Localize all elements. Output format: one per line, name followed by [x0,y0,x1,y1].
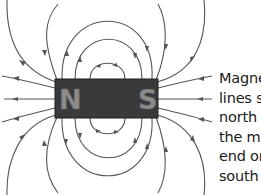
caption-text: Magnet lines sta north po the mag end on… [219,69,261,187]
field-line-open-top-right-2 [157,0,205,82]
caption-line: the mag [219,128,261,148]
caption-line: Magnet [219,69,261,89]
field-line-left-lower [2,108,55,122]
field-line-left-upper [2,76,55,88]
field-line-open-top-left-1 [47,4,58,80]
field-line-open-top-right-1 [156,4,165,80]
field-line-inner-bottom [90,118,125,134]
caption-line: end on t [219,147,261,167]
arrow-icon [133,137,137,143]
field-line-open-bottom-right-2 [157,115,205,195]
arrow-icon [42,140,47,146]
south-pole-label: S [138,84,157,115]
field-line-inner-top [90,63,125,79]
arrow-icon [12,97,18,101]
arrow-icon [96,64,101,68]
arrow-icon [42,50,47,56]
arrow-icon [19,60,26,66]
north-pole-label: N [59,84,82,115]
field-line-open-bottom-left-1 [47,117,58,193]
arrow-icon [197,97,203,101]
field-line-open-top-left-2 [7,0,56,82]
field-line-middle-top [75,39,142,79]
field-line-open-bottom-right-1 [156,117,165,193]
arrow-icon [19,134,25,140]
caption-line: north po [219,108,261,128]
caption-line: south p [219,167,261,187]
bar-magnet: N S [55,79,158,118]
caption-line: lines sta [219,89,261,109]
field-line-open-bottom-left-2 [7,115,56,195]
field-line-middle-bottom [75,118,142,158]
